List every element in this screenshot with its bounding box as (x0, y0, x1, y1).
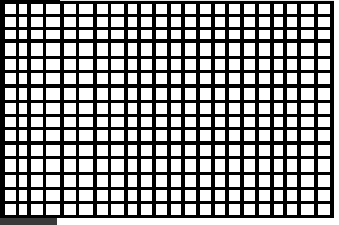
grid-cell (259, 17, 270, 27)
grid-cell (156, 145, 167, 156)
grid-cell (64, 145, 76, 156)
grid-cell (259, 130, 270, 141)
grid-cell (64, 117, 76, 127)
grid-cell (200, 4, 211, 14)
grid-cell (185, 103, 196, 114)
grid-cell (46, 73, 60, 84)
grid-cell (215, 159, 225, 172)
grid-cell (259, 175, 270, 187)
grid-cell (97, 4, 108, 14)
grid-cell (5, 130, 16, 141)
grid-cell (301, 43, 314, 56)
grid-cell (46, 190, 60, 201)
grid-cell (215, 4, 225, 14)
grid-cell (128, 88, 137, 100)
grid-cell (259, 117, 270, 127)
grid-cell (156, 43, 167, 56)
grid-cell (141, 30, 152, 39)
grid-cell (301, 103, 314, 114)
grid-cell (156, 159, 167, 172)
grid-cell (79, 175, 93, 187)
grid-cell (111, 17, 124, 27)
grid-cell (287, 30, 297, 39)
grid-cell (128, 17, 137, 27)
grid-cell (31, 17, 43, 27)
grid-cell (31, 30, 43, 39)
grid-cell (171, 17, 181, 27)
grid-cell (171, 73, 181, 84)
grid-cell (46, 30, 60, 39)
grid-cell (97, 30, 108, 39)
grid-cell (301, 73, 314, 84)
grid-cell (200, 17, 211, 27)
grid-cell (171, 30, 181, 39)
grid-cell (185, 159, 196, 172)
grid-cell (244, 145, 255, 156)
grid-cell (318, 103, 330, 114)
grid-cell (318, 73, 330, 84)
grid-cell (46, 59, 60, 70)
grid-cell (287, 190, 297, 201)
grid-cell (287, 17, 297, 27)
grid-cell (318, 43, 330, 56)
grid-cell (200, 43, 211, 56)
grid-cell (200, 103, 211, 114)
grid-cell (79, 59, 93, 70)
grid-cell (200, 130, 211, 141)
grid-cell (97, 159, 108, 172)
grid-cell (259, 204, 270, 215)
grid-cell (19, 43, 27, 56)
grid-cell (318, 4, 330, 14)
top-edge-highlight (60, 0, 334, 1)
grid-cell (111, 130, 124, 141)
grid-cell (215, 73, 225, 84)
grid-cell (128, 73, 137, 84)
grid-cell (301, 204, 314, 215)
grid-cell (5, 103, 16, 114)
grid-cell (200, 30, 211, 39)
grid-cell (19, 130, 27, 141)
grid-cell (274, 145, 283, 156)
grid-cell (64, 59, 76, 70)
grid-cell (287, 88, 297, 100)
grid-cell (19, 159, 27, 172)
grid-cell (5, 59, 16, 70)
grid-cell (301, 145, 314, 156)
grid-cell (185, 17, 196, 27)
grid-cell (64, 103, 76, 114)
grid-cell (318, 159, 330, 172)
grid-cell (287, 59, 297, 70)
grid-cell (244, 4, 255, 14)
grid-cell (244, 130, 255, 141)
grid-cell (259, 190, 270, 201)
grid-cell (111, 103, 124, 114)
grid-cell (79, 159, 93, 172)
grid-cell (156, 17, 167, 27)
bottom-status-strip (0, 218, 57, 225)
grid-cell (229, 43, 240, 56)
grid-cell (5, 17, 16, 27)
grid-cell (185, 30, 196, 39)
grid-cell (318, 88, 330, 100)
grid-cell (64, 88, 76, 100)
grid-cell (128, 159, 137, 172)
grid-cell (31, 145, 43, 156)
grid-cell (97, 73, 108, 84)
grid-cell (301, 17, 314, 27)
grid-cell (259, 73, 270, 84)
grid-cell (301, 88, 314, 100)
grid-cell (185, 117, 196, 127)
grid-cell (301, 190, 314, 201)
grid-cell (274, 130, 283, 141)
grid-cell (97, 59, 108, 70)
grid-cell (274, 190, 283, 201)
grid-cell (287, 103, 297, 114)
grid-cell (318, 204, 330, 215)
grid-cell (171, 159, 181, 172)
grid-cell (31, 204, 43, 215)
grid-cell (97, 175, 108, 187)
grid-cell (244, 103, 255, 114)
grid-cell (200, 204, 211, 215)
grid-cell (19, 145, 27, 156)
grid-cell (79, 30, 93, 39)
